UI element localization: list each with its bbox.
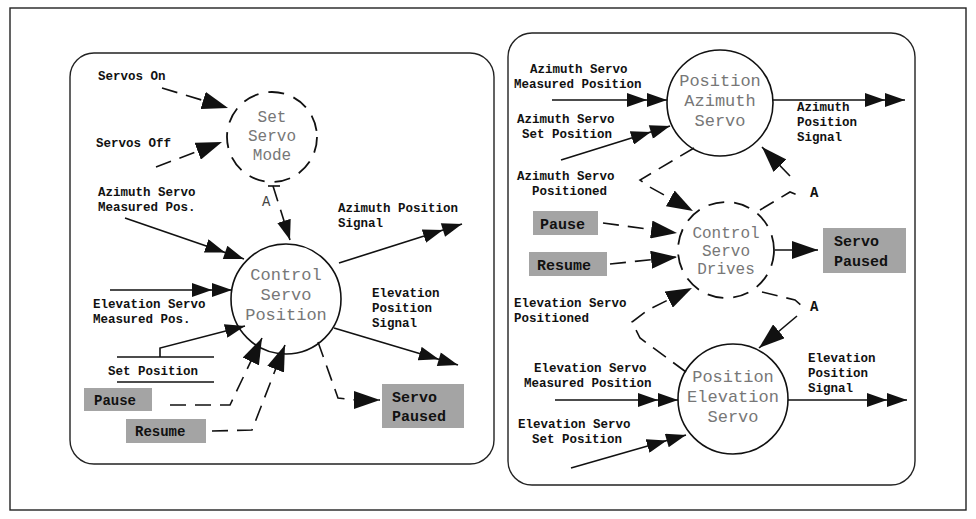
terminator-resume-left: Resume bbox=[126, 419, 206, 443]
svg-text:Servo: Servo bbox=[392, 390, 437, 407]
flow-set-mode-to-control bbox=[273, 186, 290, 240]
process-position-elevation-servo: Position Elevation Servo bbox=[678, 344, 788, 454]
svg-text:Mode: Mode bbox=[253, 147, 291, 165]
flow-servos-on bbox=[162, 88, 228, 108]
svg-text:Servo: Servo bbox=[248, 128, 296, 146]
connector-label-a-upper: A bbox=[810, 185, 819, 201]
svg-text:Servo: Servo bbox=[702, 243, 750, 261]
flow-servo-paused-left bbox=[318, 342, 380, 400]
flow-drives-to-elevation-a bbox=[762, 292, 802, 306]
connector-label-a-lower: A bbox=[810, 299, 819, 315]
svg-text:Control: Control bbox=[250, 266, 321, 285]
label-azimuth-measured-right: Azimuth ServoMeasured Position bbox=[514, 63, 642, 92]
process-set-servo-mode: Set Servo Mode bbox=[227, 92, 317, 182]
label-elevation-measured-right: Elevation ServoMeasured Position bbox=[524, 362, 652, 391]
flow-elevation-positioned bbox=[632, 288, 692, 372]
label-servos-off: Servos Off bbox=[96, 137, 171, 151]
connector-label-a: A bbox=[262, 194, 271, 210]
flow-pause-right bbox=[603, 223, 677, 233]
flow-elevation-signal-left bbox=[334, 328, 458, 365]
label-azimuth-measured: Azimuth ServoMeasured Pos. bbox=[98, 186, 196, 215]
flow-resume-left bbox=[212, 345, 285, 431]
svg-text:Servo: Servo bbox=[260, 286, 311, 305]
svg-text:Servo: Servo bbox=[694, 112, 745, 131]
flow-a-to-elevation bbox=[759, 316, 797, 348]
terminator-servo-paused-left: Servo Paused bbox=[382, 384, 464, 428]
label-elevation-signal-left: ElevationPositionSignal bbox=[372, 287, 440, 331]
label-servos-on: Servos On bbox=[98, 70, 166, 84]
process-position-azimuth-servo: Position Azimuth Servo bbox=[667, 50, 773, 156]
process-control-servo-drives: Control Servo Drives bbox=[678, 202, 774, 298]
label-elevation-signal-right: ElevationPositionSignal bbox=[808, 352, 876, 396]
svg-text:Set Position: Set Position bbox=[108, 365, 198, 379]
flow-azimuth-positioned bbox=[640, 148, 694, 211]
label-elevation-set-right: Elevation ServoSet Position bbox=[518, 418, 631, 447]
flow-azimuth-measured bbox=[125, 218, 244, 259]
label-azimuth-set-right: Azimuth ServoSet Position bbox=[517, 113, 615, 142]
svg-text:Control: Control bbox=[692, 225, 759, 243]
svg-text:Servo: Servo bbox=[707, 408, 758, 427]
label-azimuth-signal-left: Azimuth PositionSignal bbox=[338, 202, 458, 231]
process-control-servo-position: Control Servo Position bbox=[231, 244, 341, 354]
svg-text:Position: Position bbox=[679, 72, 761, 91]
svg-text:Position: Position bbox=[245, 306, 327, 325]
svg-text:Resume: Resume bbox=[135, 424, 185, 440]
svg-text:Azimuth: Azimuth bbox=[684, 92, 755, 111]
svg-text:Paused: Paused bbox=[834, 254, 888, 271]
terminator-servo-paused-right: Servo Paused bbox=[823, 228, 906, 273]
svg-text:Set: Set bbox=[258, 109, 287, 127]
svg-text:Drives: Drives bbox=[697, 261, 755, 279]
label-elevation-positioned: Elevation ServoPositioned bbox=[514, 297, 627, 326]
label-azimuth-positioned: Azimuth ServoPositioned bbox=[517, 170, 615, 199]
svg-text:Servo: Servo bbox=[834, 234, 879, 251]
flow-set-position bbox=[160, 326, 245, 357]
terminator-pause-right: Pause bbox=[533, 211, 598, 235]
svg-text:Resume: Resume bbox=[537, 258, 591, 275]
terminator-pause-left: Pause bbox=[84, 388, 152, 411]
svg-text:Paused: Paused bbox=[392, 409, 446, 426]
terminator-resume-right: Resume bbox=[529, 252, 607, 276]
label-elevation-measured: Elevation ServoMeasured Pos. bbox=[93, 298, 206, 327]
svg-text:Pause: Pause bbox=[94, 393, 136, 409]
label-azimuth-signal-right: AzimuthPositionSignal bbox=[797, 101, 857, 145]
servo-control-diagram: Set Servo Mode Control Servo Position Se… bbox=[0, 0, 976, 519]
svg-text:Pause: Pause bbox=[540, 217, 585, 234]
svg-text:Elevation: Elevation bbox=[687, 388, 779, 407]
flow-drives-to-azimuth-a bbox=[760, 192, 800, 210]
svg-text:Position: Position bbox=[692, 368, 774, 387]
datastore-set-position: Set Position bbox=[108, 357, 214, 382]
flow-a-to-azimuth bbox=[762, 147, 790, 176]
flow-resume-right bbox=[610, 257, 677, 264]
